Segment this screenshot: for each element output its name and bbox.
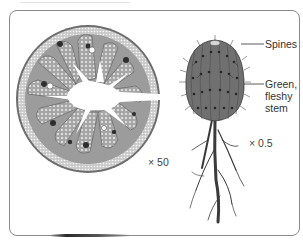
stem-cross-section [16, 25, 162, 173]
cactus-diagram [0, 0, 303, 251]
whole-cactus-plant [179, 35, 251, 222]
label-green-fleshy-stem: Green, fleshy stem [265, 78, 297, 114]
label-line: fleshy [265, 90, 297, 102]
label-line: Green, [265, 78, 297, 90]
scale-cross-section: × 50 [148, 156, 169, 168]
scale-whole-plant: × 0.5 [249, 137, 273, 149]
roots [190, 120, 244, 222]
label-spines: Spines [265, 38, 297, 50]
label-line: stem [265, 102, 297, 114]
